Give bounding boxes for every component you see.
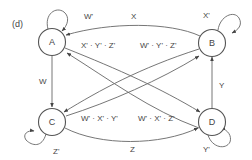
- label-A-C: W: [39, 77, 47, 86]
- svg-text:B: B: [209, 38, 215, 48]
- edge-C-D: [65, 128, 198, 142]
- label-B-C: W' · Y' · Z': [140, 41, 177, 50]
- label-A-D: X' · Y' · Z': [81, 41, 116, 50]
- node-D: D: [199, 109, 226, 136]
- node-A: A: [39, 29, 66, 56]
- edge-C-C-self-loop: [25, 131, 46, 145]
- label-D-A: W' · X' · Z': [138, 114, 175, 123]
- edge-B-C: [64, 49, 199, 112]
- edge-A-A-self-loop: [47, 10, 67, 31]
- edge-B-A: [66, 25, 200, 36]
- node-C: C: [39, 109, 66, 136]
- label-B-A: X: [131, 12, 137, 21]
- node-B: B: [199, 30, 226, 57]
- svg-text:D: D: [209, 117, 216, 127]
- label-C-D: Z: [130, 145, 135, 154]
- label-D-D: Y': [203, 145, 210, 154]
- edge-B-B-self-loop: [218, 14, 240, 33]
- label-A-A: W': [84, 12, 94, 21]
- svg-text:C: C: [49, 117, 56, 127]
- panel-label: (d): [12, 19, 23, 29]
- label-C-C: Z': [53, 147, 60, 156]
- state-diagram: (d) A B C D W' X' Z' Y': [0, 0, 252, 160]
- label-D-B: Y: [219, 81, 225, 90]
- label-C-B: W' · X' · Y': [81, 114, 118, 123]
- svg-text:A: A: [49, 37, 55, 47]
- edge-A-D: [65, 48, 200, 112]
- label-B-B: X': [203, 11, 210, 20]
